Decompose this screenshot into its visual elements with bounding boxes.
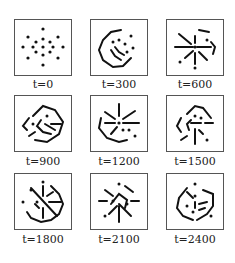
panel-t0 (14, 19, 72, 76)
panel-t900 (14, 95, 72, 152)
panel-t1800 (14, 173, 72, 230)
panel-label: t=2400 (160, 234, 230, 246)
swirl-graphic (15, 174, 71, 229)
radial-graphic (91, 96, 147, 151)
panel-t1200 (90, 95, 148, 152)
dot-lattice-graphic (15, 20, 71, 75)
swirl-graphic (167, 174, 223, 229)
radial-graphic (167, 20, 223, 75)
swirl-graphic (167, 96, 223, 151)
panel-t2400 (166, 173, 224, 230)
panel-t2100 (90, 173, 148, 230)
swirl-graphic (15, 96, 71, 151)
panel-t600 (166, 19, 224, 76)
panel-label: t=2100 (84, 234, 154, 246)
panel-t300 (90, 19, 148, 76)
panel-t1500 (166, 95, 224, 152)
swirl-graphic (91, 20, 147, 75)
panel-label: t=900 (8, 156, 78, 168)
panel-label: t=0 (8, 79, 78, 91)
radial-graphic (91, 174, 147, 229)
panel-label: t=1800 (8, 234, 78, 246)
panel-label: t=1500 (160, 156, 230, 168)
panel-label: t=1200 (84, 156, 154, 168)
panel-label: t=300 (84, 79, 154, 91)
panel-label: t=600 (160, 79, 230, 91)
